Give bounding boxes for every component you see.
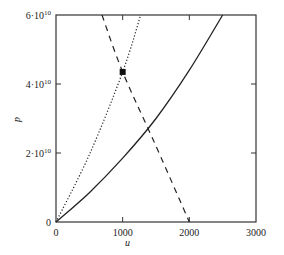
series-solid [56, 15, 223, 222]
chart: 0100020003000 02·10104·10106·1010 u p [0, 0, 284, 255]
x-tick-label: 3000 [246, 227, 266, 238]
series-dashed [102, 15, 189, 222]
x-tick-labels: 0100020003000 [54, 227, 267, 238]
y-tick-label: 6·1010 [26, 9, 52, 21]
x-axis-label: u [125, 237, 130, 248]
x-tick-label: 0 [54, 227, 59, 238]
y-tick-label: 2·1010 [26, 147, 52, 159]
y-axis-label: p [11, 117, 22, 123]
y-tick-label: 0 [46, 217, 51, 228]
x-tick-label: 2000 [179, 227, 199, 238]
square-marker [120, 69, 126, 75]
series-lines [56, 15, 223, 222]
y-tick-label: 4·1010 [26, 78, 52, 90]
annotations [120, 69, 126, 75]
series-dotted [56, 15, 141, 222]
y-tick-labels: 02·10104·10106·1010 [26, 9, 52, 228]
